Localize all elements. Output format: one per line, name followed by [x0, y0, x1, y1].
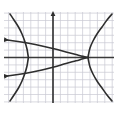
graph-figure	[0, 0, 118, 117]
coordinate-plot	[0, 0, 118, 117]
curve-inner-left-opening-parabola-lower	[7, 58, 88, 77]
